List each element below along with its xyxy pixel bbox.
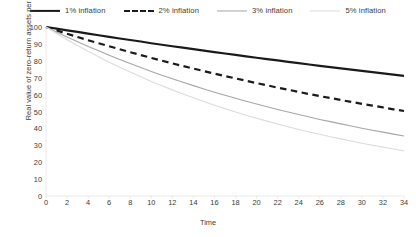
inflation-decay-chart: 1% inflation 2% inflation 3% inflation 5… bbox=[0, 0, 416, 237]
x-axis-tick-labels: 0246810121416182022242628303234 bbox=[0, 0, 416, 237]
x-axis-title: Time bbox=[0, 218, 416, 227]
x-tick-label: 34 bbox=[392, 198, 416, 207]
